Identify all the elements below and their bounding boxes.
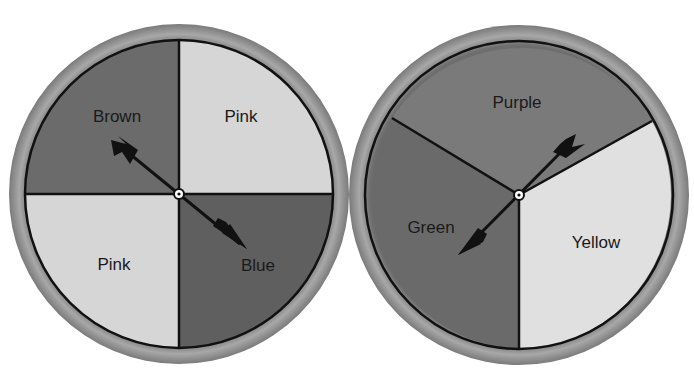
label-yellow: Yellow [572,233,621,252]
label-pink-bottom: Pink [97,255,131,274]
label-purple: Purple [492,93,541,112]
spinners-diagram: Brown Pink Blue Pink Purple Yellow Green [0,0,694,389]
spinner-a: Brown Pink Blue Pink [9,24,349,364]
spinner-b: Purple Yellow Green [349,25,689,365]
label-brown: Brown [93,107,141,126]
label-green: Green [407,218,454,237]
label-blue: Blue [241,256,275,275]
label-pink-top: Pink [224,107,258,126]
